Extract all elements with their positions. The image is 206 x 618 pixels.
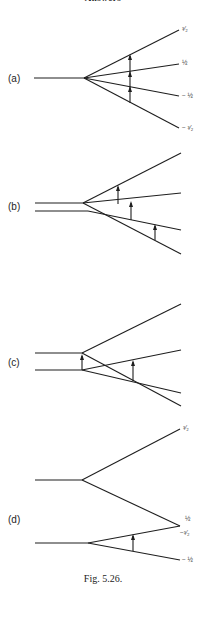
- sublevel-line: [84, 78, 179, 96]
- level-label: − ½: [182, 556, 194, 563]
- panel-label-b: (b): [8, 201, 20, 212]
- sublevel-line: [88, 526, 180, 543]
- arrowhead-icon: [129, 201, 133, 207]
- arrowhead-icon: [80, 354, 84, 360]
- level-label: ½: [182, 59, 188, 66]
- arrowhead-icon: [131, 360, 135, 366]
- level-label: ³⁄₂: [183, 424, 189, 431]
- sublevel-line: [82, 480, 180, 526]
- sublevel-line: [82, 304, 181, 353]
- panel-c: (c): [8, 304, 181, 406]
- sublevel-line: [82, 429, 180, 480]
- figure-caption: Fig. 5.26.: [0, 573, 206, 584]
- panel-b: (b): [8, 153, 181, 254]
- level-label: − ³⁄₂: [182, 124, 194, 131]
- level-label: ³⁄₂: [182, 25, 188, 32]
- energy-level-diagram: (a) ³⁄₂ ½ − ½ − ³⁄₂ (b) (c): [0, 0, 206, 618]
- sublevel-line: [83, 153, 181, 203]
- level-label: −³⁄₂: [180, 529, 190, 536]
- panel-label-a: (a): [8, 73, 20, 84]
- panel-a: (a) ³⁄₂ ½ − ½ − ³⁄₂: [8, 25, 194, 131]
- level-label: ½: [185, 515, 191, 522]
- level-label: − ½: [182, 92, 194, 99]
- sublevel-line: [82, 370, 181, 393]
- sublevel-line: [82, 353, 181, 406]
- sublevel-line: [88, 211, 181, 230]
- panel-label-c: (c): [8, 357, 20, 368]
- panel-label-d: (d): [8, 514, 20, 525]
- panel-d: (d) ³⁄₂ ½ −³⁄₂ − ½: [8, 424, 194, 563]
- sublevel-line: [83, 193, 181, 203]
- sublevel-line: [88, 543, 180, 560]
- sublevel-line: [83, 203, 181, 254]
- sublevel-line: [84, 78, 179, 128]
- sublevel-line: [82, 350, 181, 370]
